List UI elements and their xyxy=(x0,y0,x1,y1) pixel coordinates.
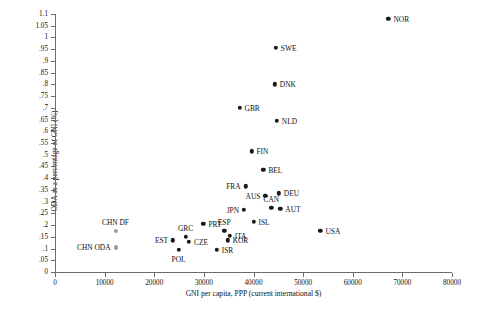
y-tick xyxy=(51,131,55,132)
data-point-cze xyxy=(187,239,191,243)
data-point-label-can: CAN xyxy=(264,195,280,204)
data-point-isr xyxy=(215,248,219,252)
y-tick-label: .3 xyxy=(43,198,48,206)
y-tick xyxy=(51,155,55,156)
y-tick-label: 1.05 xyxy=(35,22,48,30)
y-tick xyxy=(51,108,55,109)
data-point-usa xyxy=(318,229,322,233)
data-point-chn-df xyxy=(113,229,117,233)
y-tick-label: .4 xyxy=(43,174,48,182)
data-point-dnk xyxy=(273,82,277,86)
data-point-bel xyxy=(261,168,265,172)
x-tick-label: 10000 xyxy=(96,279,114,287)
data-point-label-aus: AUS xyxy=(246,191,261,200)
data-point-label-grc: GRC xyxy=(178,224,193,233)
y-tick xyxy=(51,84,55,85)
y-tick xyxy=(51,225,55,226)
x-tick xyxy=(204,273,205,277)
y-tick xyxy=(51,237,55,238)
x-tick xyxy=(254,273,255,277)
y-tick-label: .9 xyxy=(43,57,48,65)
data-point-ita xyxy=(227,233,231,237)
y-tick xyxy=(51,96,55,97)
y-axis-line xyxy=(55,14,56,272)
x-tick xyxy=(55,273,56,277)
y-tick xyxy=(51,249,55,250)
data-point-nor xyxy=(386,16,390,20)
data-point-label-chn-df: CHN DF xyxy=(102,218,129,227)
data-point-est xyxy=(171,238,175,242)
y-tick-label: .85 xyxy=(39,69,48,77)
data-point-aut xyxy=(278,206,282,210)
x-tick-label: 50000 xyxy=(294,279,312,287)
data-point-pol xyxy=(176,248,180,252)
data-point-prt xyxy=(201,222,205,226)
data-point-label-gbr: GBR xyxy=(245,103,260,112)
data-point-kor xyxy=(225,238,229,242)
y-tick-label: .1 xyxy=(43,245,48,253)
data-point-nld xyxy=(275,119,279,123)
y-tick xyxy=(51,49,55,50)
y-tick-label: .65 xyxy=(39,116,48,124)
data-point-esp xyxy=(222,229,226,233)
y-tick-label: .55 xyxy=(39,139,48,147)
y-tick-label: .05 xyxy=(39,256,48,264)
data-point-jpn xyxy=(242,208,246,212)
data-point-label-usa: USA xyxy=(325,226,340,235)
x-tick xyxy=(452,273,453,277)
data-point-label-est: EST xyxy=(155,236,168,245)
data-point-fra xyxy=(243,184,247,188)
x-tick xyxy=(303,273,304,277)
x-tick-label: 20000 xyxy=(145,279,163,287)
y-tick-label: .8 xyxy=(43,80,48,88)
x-tick xyxy=(105,273,106,277)
data-point-label-fin: FIN xyxy=(257,147,269,156)
x-axis-title: GNI per capita, PPP (current internation… xyxy=(55,289,452,298)
data-point-gbr xyxy=(237,106,241,110)
y-tick-label: .95 xyxy=(39,45,48,53)
data-point-label-isl: ISL xyxy=(259,217,270,226)
data-point-label-nld: NLD xyxy=(282,116,297,125)
data-point-isl xyxy=(251,219,255,223)
data-point-label-cze: CZE xyxy=(194,237,208,246)
y-tick xyxy=(51,190,55,191)
data-point-label-nor: NOR xyxy=(393,14,409,23)
y-tick xyxy=(51,143,55,144)
data-point-label-jpn: JPN xyxy=(227,205,239,214)
y-tick xyxy=(51,14,55,15)
x-tick-label: 40000 xyxy=(245,279,263,287)
data-point-chn-oda xyxy=(113,245,117,249)
x-tick-label: 0 xyxy=(53,279,57,287)
y-tick-label: .35 xyxy=(39,186,48,194)
y-tick xyxy=(51,37,55,38)
data-point-label-aut: AUT xyxy=(285,204,300,213)
x-tick-label: 60000 xyxy=(344,279,362,287)
data-point-label-fra: FRA xyxy=(226,182,240,191)
x-tick xyxy=(154,273,155,277)
data-point-label-dnk: DNK xyxy=(280,80,296,89)
y-tick-label: .2 xyxy=(43,221,48,229)
y-tick xyxy=(51,120,55,121)
data-point-label-kor: KOR xyxy=(233,236,249,245)
x-tick-label: 80000 xyxy=(443,279,461,287)
y-tick-label: 0 xyxy=(44,268,48,276)
data-point-label-chn-oda: CHN ODA xyxy=(77,243,110,252)
y-tick-label: .6 xyxy=(43,127,48,135)
plot-area: 0.05.1.15.2.25.3.35.4.45.5.55.6.65.7.75.… xyxy=(55,14,452,272)
y-tick xyxy=(51,213,55,214)
data-point-label-isr: ISR xyxy=(222,245,234,254)
y-tick-label: 1 xyxy=(44,33,48,41)
y-tick xyxy=(51,61,55,62)
y-tick xyxy=(51,178,55,179)
x-tick-label: 30000 xyxy=(195,279,213,287)
y-tick xyxy=(51,166,55,167)
data-point-label-bel: BEL xyxy=(268,165,282,174)
y-tick xyxy=(51,202,55,203)
chart-figure: ODA as a percentage of GNI (%) GNI per c… xyxy=(0,0,484,322)
y-tick-label: .45 xyxy=(39,162,48,170)
data-point-swe xyxy=(274,46,278,50)
data-point-label-esp: ESP xyxy=(218,218,231,227)
y-tick-label: .7 xyxy=(43,104,48,112)
y-tick-label: 1.1 xyxy=(39,10,48,18)
x-tick xyxy=(353,273,354,277)
